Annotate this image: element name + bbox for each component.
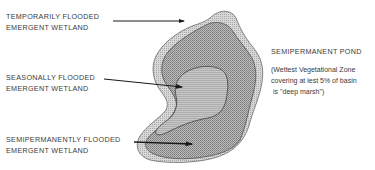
pond-title: SEMIPERMANENT POND (271, 46, 362, 57)
label-seasonally-line1: SEASONALLY FLOODED (6, 72, 95, 83)
label-seasonally-flooded: SEASONALLY FLOODED EMERGENT WETLAND (6, 72, 95, 94)
label-seasonally-line2: EMERGENT WETLAND (6, 83, 95, 94)
note-line2: covering at lest 5% of basin (271, 75, 357, 86)
pond-note: (Wettest Vegetational Zone covering at l… (271, 64, 357, 97)
note-line3: is "deep marsh") (271, 86, 357, 97)
pond-title-text: SEMIPERMANENT POND (271, 46, 362, 57)
note-line1: (Wettest Vegetational Zone (271, 64, 357, 75)
label-temporarily-flooded: TEMPORARILY FLOODED EMERGENT WETLAND (6, 11, 99, 33)
label-temporarily-line2: EMERGENT WETLAND (6, 22, 99, 33)
label-semipermanently-line2: EMERGENT WETLAND (6, 145, 120, 156)
label-semipermanently-line1: SEMIPERMANENTLY FLOODED (6, 134, 120, 145)
label-temporarily-line1: TEMPORARILY FLOODED (6, 11, 99, 22)
label-semipermanently-flooded: SEMIPERMANENTLY FLOODED EMERGENT WETLAND (6, 134, 120, 156)
